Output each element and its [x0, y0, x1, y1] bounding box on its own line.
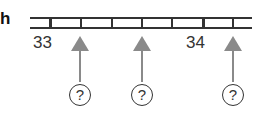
row-label: h — [0, 9, 10, 29]
up-arrow-icon — [70, 36, 90, 82]
up-arrow-icon — [223, 36, 243, 82]
label-34: 34 — [186, 33, 205, 53]
tick-34 — [202, 17, 205, 29]
tick — [80, 17, 82, 29]
question-circle-1[interactable]: ? — [69, 84, 91, 106]
question-circle-3[interactable]: ? — [222, 84, 244, 106]
tick — [141, 17, 143, 29]
label-33: 33 — [33, 33, 52, 53]
tick — [111, 17, 113, 29]
up-arrow-icon — [132, 36, 152, 82]
question-circle-2[interactable]: ? — [131, 84, 153, 106]
tick-33 — [49, 17, 52, 29]
tick — [232, 17, 234, 29]
tick — [171, 17, 173, 29]
